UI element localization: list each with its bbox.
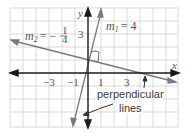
coordinate-plane: y x −3 −1 1 3 3 m1= 4 m2= − 1 4 perpendi…: [0, 0, 193, 136]
x-axis: [10, 70, 179, 76]
annotation-perpendicular: perpendicular: [97, 88, 164, 100]
grid: [10, 8, 178, 127]
y-axis: [85, 8, 91, 128]
x-tick-3: 3: [124, 76, 130, 88]
svg-text:m1= 4: m1= 4: [106, 19, 136, 34]
y-tick-3: 3: [78, 28, 84, 40]
y-axis-label: y: [77, 7, 83, 19]
svg-text:m2= −: m2= −: [25, 29, 56, 44]
x-tick-neg3: −3: [43, 76, 55, 88]
slope-label-m1: m1= 4: [106, 19, 136, 34]
line-m1: [71, 9, 103, 126]
annotation-lines: lines: [119, 102, 142, 114]
slope-label-m2: m2= − 1 4: [25, 24, 68, 45]
fraction-denominator: 4: [62, 33, 68, 45]
x-tick-neg1: −1: [67, 76, 79, 88]
x-axis-label: x: [171, 59, 177, 71]
x-tick-1: 1: [98, 76, 104, 88]
